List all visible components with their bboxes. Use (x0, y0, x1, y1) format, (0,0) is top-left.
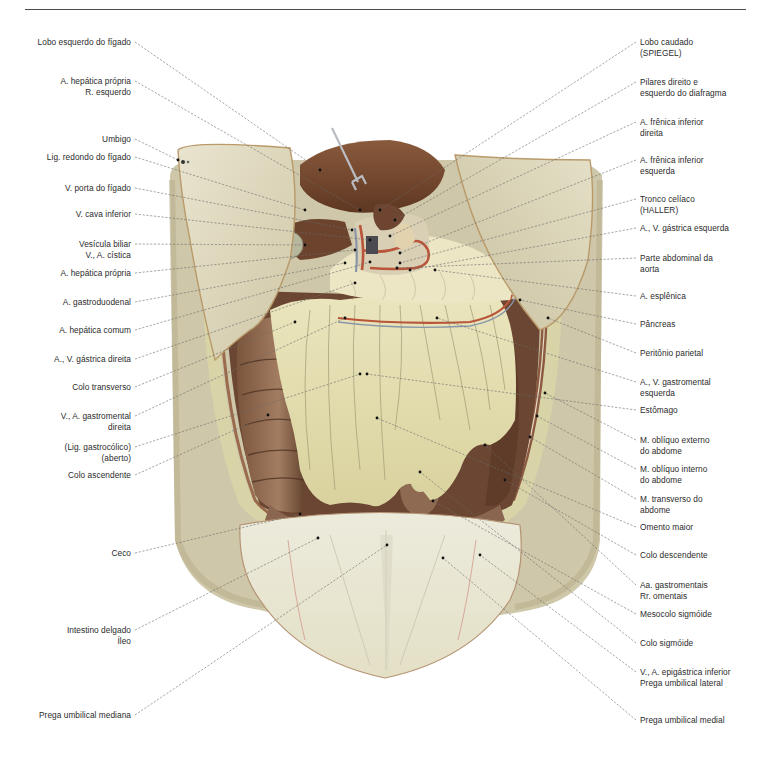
leader-dot (177, 159, 180, 162)
leader-dot (304, 244, 307, 247)
leader-dot (319, 169, 322, 172)
leader-dot (504, 479, 507, 482)
leader-dot (544, 392, 547, 395)
leader-dot (344, 262, 347, 265)
label-intestino-delgado: Intestino delgado Íleo (67, 625, 131, 646)
label-v-a-gastromental: V., A. gastromental direita (61, 411, 131, 432)
leader-dot (294, 321, 297, 324)
leader-line (135, 139, 178, 160)
label-pilares-direito-e: Pilares direito e esquerdo do diafragma (640, 77, 726, 98)
leader-dot (442, 557, 445, 560)
leader-dot (436, 317, 439, 320)
label-vesicula-biliar: Vesícula biliar V., A. cística (79, 239, 131, 260)
leader-dot (547, 317, 550, 320)
leader-dot (379, 209, 382, 212)
label-lobo-esquerdo-do-figado: Lobo esquerdo do fígado (38, 37, 131, 48)
leader-dot (409, 269, 412, 272)
leader-dot (386, 544, 389, 547)
label-colo-sigmoide: Colo sigmóide (640, 638, 693, 649)
label-lobo-caudado: Lobo caudado (SPIEGEL) (640, 37, 693, 58)
label-colo-descendente: Colo descendente (640, 550, 708, 561)
vena-cava (366, 236, 378, 254)
label-tronco-celiaco: Tronco celíaco (HALLER) (640, 194, 695, 215)
leader-dot (366, 373, 369, 376)
label-parte-abdominal-da: Parte abdominal da aorta (640, 253, 713, 274)
leader-dot (344, 317, 347, 320)
leader-dot (519, 299, 522, 302)
leader-dot (432, 500, 435, 503)
leader-dot (394, 219, 397, 222)
leader-dot (359, 373, 362, 376)
label-mesocolo-sigmoide: Mesocolo sigmóide (640, 609, 712, 620)
leader-dot (536, 415, 539, 418)
label-m-transverso-do: M. transverso do abdome (640, 494, 703, 515)
leader-dot (399, 252, 402, 255)
leader-dot (484, 444, 487, 447)
leader-dot (369, 261, 372, 264)
label-prega-umbilical-medial: Prega umbilical medial (640, 715, 725, 726)
leader-dot (419, 471, 422, 474)
label-colo-ascendente: Colo ascendente (68, 470, 131, 481)
leader-dot (434, 269, 437, 272)
label-a-frenica-inferior: A. frênica inferior direita (640, 117, 704, 138)
label-lig-gastrocolico: (Lig. gastrocólico) (aberto) (65, 442, 131, 463)
label-pancreas: Pâncreas (640, 319, 675, 330)
label-v-cava-inferior: V. cava inferior (76, 209, 131, 220)
label-umbigo: Umbigo (102, 134, 131, 145)
label-lig-redondo-do-figado: Lig. redondo do fígado (47, 152, 131, 163)
leader-dot (399, 262, 402, 265)
label-a-hepatica-propria: A. hepática própria R. esquerdo (60, 76, 131, 97)
label-a-esplenica: A. esplênica (640, 291, 686, 302)
label-ceco: Ceco (111, 548, 131, 559)
leader-dot (529, 436, 532, 439)
leader-dot (389, 235, 392, 238)
leader-dot (317, 537, 320, 540)
leader-dot (396, 267, 399, 270)
label-a-v-gastrica-esquerda: A., V. gástrica esquerda (640, 223, 729, 234)
leader-dot (369, 239, 372, 242)
label-a-v-gastrica-direita: A., V. gástrica direita (54, 354, 131, 365)
leader-dot (376, 417, 379, 420)
label-v-a-epigastrica-inferior: V., A. epigástrica inferior Prega umbili… (640, 667, 731, 688)
label-a-gastroduodenal: A. gastroduodenal (63, 297, 131, 308)
leader-dot (354, 249, 357, 252)
label-prega-umbilical-mediana: Prega umbilical mediana (39, 710, 131, 721)
leader-dot (359, 209, 362, 212)
leader-dot (351, 229, 354, 232)
label-omento-maior: Omento maior (640, 522, 693, 533)
label-colo-transverso: Colo transverso (72, 382, 131, 393)
leader-dot (354, 282, 357, 285)
label-v-porta-do-figado: V. porta do fígado (65, 183, 131, 194)
label-m-obliquo-externo: M. oblíquo externo do abdome (640, 435, 710, 456)
leader-dot (479, 554, 482, 557)
label-peritonio-parietal: Peritônio parietal (640, 348, 703, 359)
label-a-frenica-inferior: A. frênica inferior esquerda (640, 155, 704, 176)
leader-dot (299, 513, 302, 516)
label-aa-gastromentais: Aa. gastromentais Rr. omentais (640, 580, 708, 601)
label-m-obliquo-interno: M. oblíquo interno do abdome (640, 464, 707, 485)
label-estomago: Estômago (640, 405, 678, 416)
label-a-v-gastromental: A., V. gastromental esquerda (640, 377, 711, 398)
label-a-hepatica-propria: A. hepática própria (60, 268, 131, 279)
leader-dot (304, 209, 307, 212)
leader-dot (267, 414, 270, 417)
label-a-hepatica-comum: A. hepática comum (59, 325, 131, 336)
